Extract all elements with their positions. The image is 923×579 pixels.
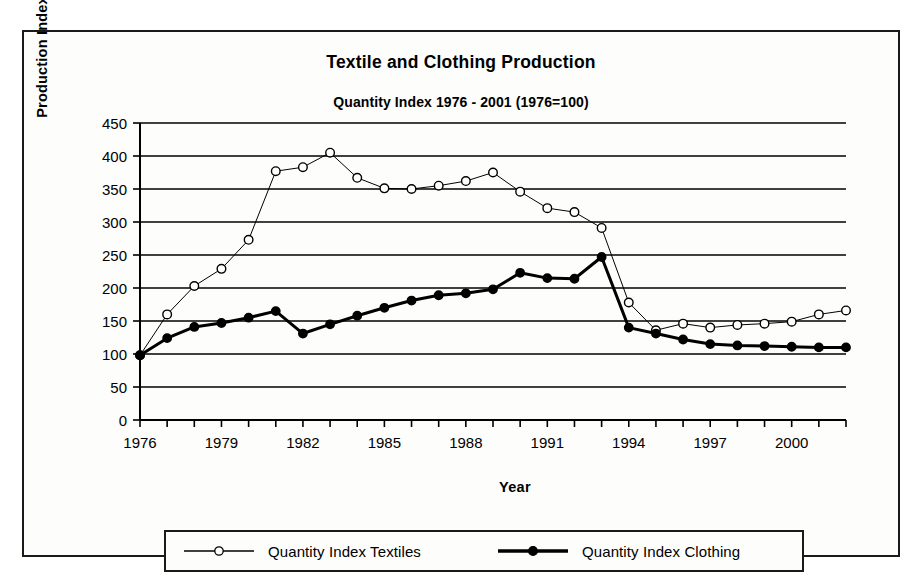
svg-text:1979: 1979 [205, 434, 238, 451]
svg-text:1976: 1976 [123, 434, 156, 451]
legend-swatch-filled-circle-line-icon [496, 543, 570, 559]
svg-text:350: 350 [102, 181, 127, 198]
svg-text:1994: 1994 [612, 434, 645, 451]
svg-text:0: 0 [119, 412, 127, 429]
x-axis-title: Year [162, 479, 868, 495]
svg-text:50: 50 [110, 379, 127, 396]
svg-text:450: 450 [102, 115, 127, 132]
svg-text:1997: 1997 [694, 434, 727, 451]
svg-text:250: 250 [102, 247, 127, 264]
svg-text:200: 200 [102, 280, 127, 297]
svg-text:1991: 1991 [531, 434, 564, 451]
svg-text:1982: 1982 [286, 434, 319, 451]
data-series-layer [136, 148, 851, 359]
legend-entry-textiles: Quantity Index Textiles [182, 532, 421, 570]
svg-text:100: 100 [102, 346, 127, 363]
y-tick-marks [133, 123, 140, 420]
x-axis-tick-labels: 197619791982198519881991199419972000 [123, 434, 808, 451]
chart-legend: Quantity Index Textiles Quantity Index C… [164, 530, 804, 572]
svg-text:400: 400 [102, 148, 127, 165]
legend-entry-clothing: Quantity Index Clothing [496, 532, 740, 570]
legend-label-clothing: Quantity Index Clothing [582, 543, 740, 560]
y-axis-tick-labels: 050100150200250300350400450 [102, 115, 127, 429]
legend-label-textiles: Quantity Index Textiles [268, 543, 421, 560]
series-textiles [136, 148, 851, 359]
svg-text:150: 150 [102, 313, 127, 330]
svg-text:1988: 1988 [449, 434, 482, 451]
svg-text:1985: 1985 [368, 434, 401, 451]
svg-text:300: 300 [102, 214, 127, 231]
legend-swatch-open-circle-line-icon [182, 543, 256, 559]
svg-text:2000: 2000 [775, 434, 808, 451]
figure-frame: Textile and Clothing Production Quantity… [22, 30, 900, 557]
x-tick-marks [140, 420, 846, 427]
series-clothing [136, 253, 850, 360]
